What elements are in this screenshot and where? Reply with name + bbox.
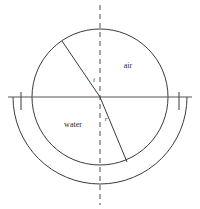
refracted-ray — [100, 97, 127, 162]
label-water: water — [64, 120, 82, 129]
optics-refraction-diagram: air water i r — [0, 0, 200, 209]
diagram-canvas: air water i r — [0, 0, 200, 209]
label-angle-of-refraction: r — [105, 115, 108, 123]
label-air: air — [124, 61, 133, 70]
incident-ray — [62, 41, 100, 97]
label-angle-of-incidence: i — [93, 76, 95, 84]
